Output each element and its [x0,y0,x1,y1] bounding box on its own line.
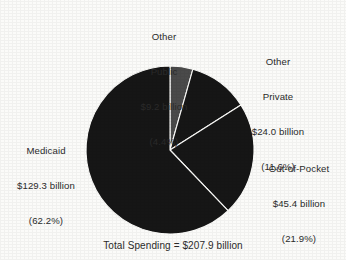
pie-chart-figure: Other Public $9.2 billion (4.4%) Other P… [0,0,346,260]
slice-label-medicaid-percent: (62.2%) [0,215,92,227]
slice-label-medicaid: Medicaid $129.3 billion (62.2%) [0,122,92,250]
slice-label-other-public-percent: (4.4%) [112,136,216,148]
slice-label-other-public-value: $9.2 billion [112,101,216,113]
slice-label-other-public: Other Public $9.2 billion (4.4%) [112,8,216,170]
slice-label-other-public-line2: Public [112,66,216,78]
slice-label-medicaid-name: Medicaid [0,145,92,157]
slice-label-medicaid-value: $129.3 billion [0,180,92,192]
chart-caption: Total Spending = $207.9 billion [0,240,346,252]
slice-label-other-public-line1: Other [112,31,216,43]
slice-label-other-private-value: $24.0 billion [222,126,334,138]
slice-label-out-of-pocket-name: Out-of-Pocket [252,163,346,175]
slice-label-out-of-pocket-value: $45.4 billion [252,198,346,210]
slice-label-other-private-line2: Private [222,91,334,103]
slice-label-other-private-line1: Other [222,56,334,68]
